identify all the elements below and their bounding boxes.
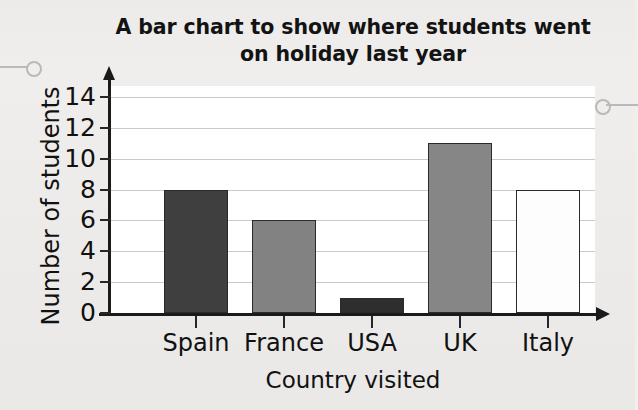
bar-usa [340, 298, 404, 313]
y-axis-tick [100, 250, 111, 252]
callout-ring [26, 61, 42, 77]
callout-stem [0, 66, 28, 68]
x-axis-title: Country visited [111, 367, 595, 393]
y-axis-tick [100, 158, 111, 160]
callout-ring [595, 99, 611, 115]
x-axis-tick [547, 316, 549, 328]
gridline [111, 159, 595, 160]
callout-hole-left-icon [0, 61, 40, 77]
y-axis-tick [100, 96, 111, 98]
gridline [111, 128, 595, 129]
bar-uk [428, 143, 492, 313]
chart-title-line-2: on holiday last year [92, 41, 614, 68]
bar-france [252, 220, 316, 313]
x-axis-tick [195, 316, 197, 328]
chart-title-line-1: A bar chart to show where students went [92, 14, 614, 41]
x-axis-tick [283, 316, 285, 328]
y-axis-tick [100, 312, 111, 314]
plot-area [111, 86, 595, 314]
bar-spain [164, 190, 228, 313]
callout-stem [606, 104, 638, 106]
x-axis-arrow-icon [596, 307, 610, 321]
x-axis-category-label-italy: Italy [488, 331, 608, 356]
x-axis-line [99, 313, 598, 316]
bar-italy [516, 190, 580, 313]
x-axis-tick [459, 316, 461, 328]
y-axis-arrow-icon [103, 66, 115, 80]
y-axis-tick [100, 219, 111, 221]
x-axis-tick [371, 316, 373, 328]
chart-title: A bar chart to show where students went … [92, 14, 614, 68]
y-axis-tick [100, 189, 111, 191]
y-axis-tick [100, 127, 111, 129]
gridline [111, 97, 595, 98]
y-axis-tick [100, 281, 111, 283]
callout-hole-right-icon [593, 99, 635, 115]
y-axis-title: Number of students [37, 76, 65, 336]
